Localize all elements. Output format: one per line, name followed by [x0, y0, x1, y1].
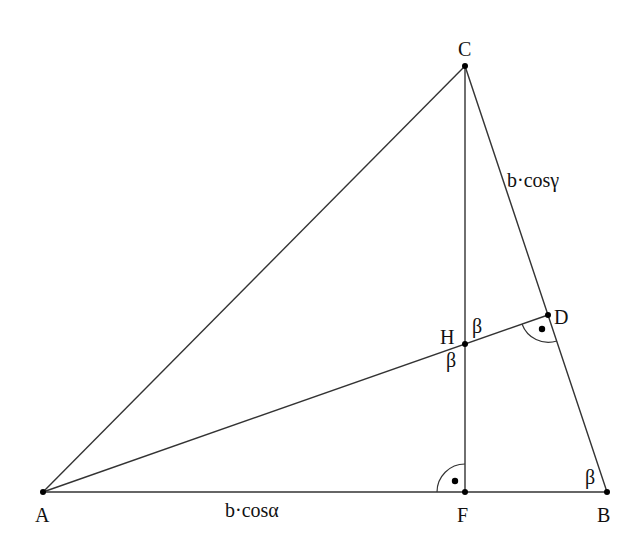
segment-ac: [43, 66, 465, 492]
point-b: [604, 489, 610, 495]
point-a: [40, 489, 46, 495]
label-b: B: [597, 504, 610, 526]
label-d: D: [554, 306, 568, 328]
angle-beta-h-upper: β: [472, 315, 482, 338]
point-d: [545, 312, 551, 318]
label-c: C: [458, 38, 471, 60]
altitude-ad: [43, 315, 548, 492]
label-h: H: [440, 326, 454, 348]
length-label-cd: b·cosγ: [507, 169, 559, 192]
point-h: [462, 341, 468, 347]
point-c: [462, 63, 468, 69]
right-angle-dot-f: [452, 478, 458, 484]
triangle-diagram: A B C D F H β β β b·cosα b·cosγ: [0, 0, 642, 550]
length-label-af: b·cosα: [225, 499, 279, 521]
label-a: A: [35, 504, 50, 526]
right-angle-arc-f: [437, 464, 465, 492]
angle-beta-h-lower: β: [446, 349, 456, 372]
point-f: [462, 489, 468, 495]
label-f: F: [457, 504, 468, 526]
right-angle-dot-d: [539, 326, 545, 332]
segment-bc: [465, 66, 607, 492]
angle-beta-b: β: [585, 466, 595, 489]
